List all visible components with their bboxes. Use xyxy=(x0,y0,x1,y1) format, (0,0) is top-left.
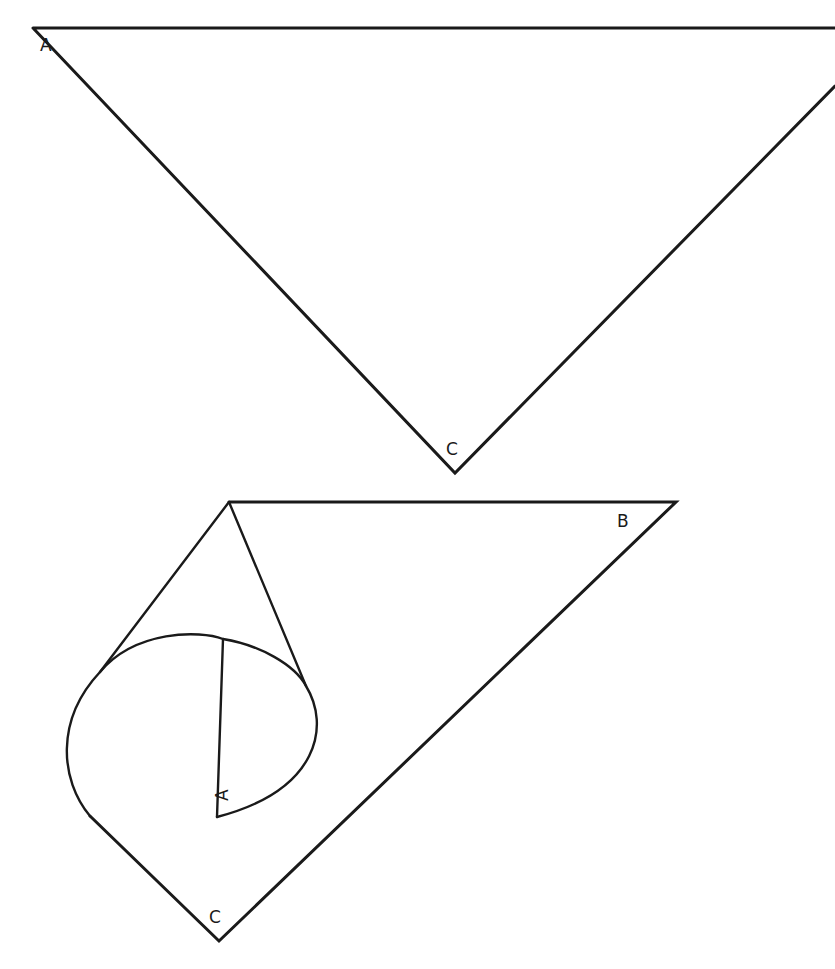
cone-right-slant xyxy=(229,502,306,686)
top-triangle: A C xyxy=(33,28,835,473)
top-label-c: C xyxy=(446,439,458,459)
cone-base-curve xyxy=(67,634,317,817)
diagram-canvas: A C A B C xyxy=(0,0,835,969)
cone-left-slant xyxy=(100,502,229,672)
bottom-label-c: C xyxy=(209,907,221,927)
bottom-figure: A B C xyxy=(67,502,676,941)
bottom-label-b: B xyxy=(617,511,629,531)
top-triangle-edges xyxy=(33,28,835,473)
bottom-label-a: A xyxy=(212,789,232,801)
top-label-a: A xyxy=(40,35,52,55)
